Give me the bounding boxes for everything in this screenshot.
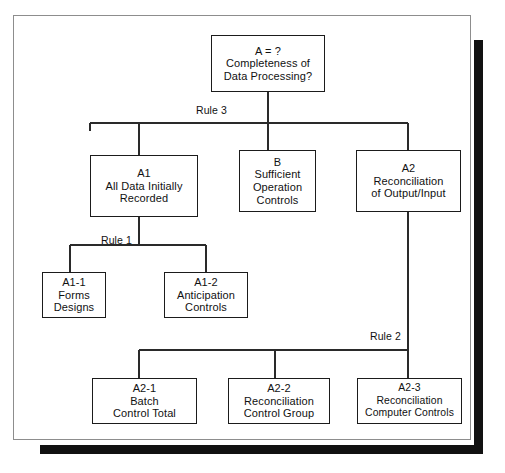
node-line: Controls xyxy=(257,194,299,207)
node-line: Computer Controls xyxy=(365,407,454,420)
flowchart-diagram: A = ? Completeness of Data Processing? A… xyxy=(0,0,505,473)
node-line: Reconciliation xyxy=(374,175,444,188)
node-line: Controls xyxy=(185,301,227,314)
node-line: Data Processing? xyxy=(224,70,312,83)
frame-shadow-right xyxy=(474,40,483,454)
node-reconciliation-computer-controls: A2-3 Reconciliation Computer Controls xyxy=(357,378,462,424)
node-completeness-of-data-processing: A = ? Completeness of Data Processing? xyxy=(211,35,325,92)
node-line: Sufficient xyxy=(254,168,300,181)
rule-label-rule3: Rule 3 xyxy=(196,104,227,116)
rule-label-rule1: Rule 1 xyxy=(101,234,132,246)
node-sufficient-operation-controls: B Sufficient Operation Controls xyxy=(239,150,316,212)
node-line: Completeness of xyxy=(226,57,310,70)
node-line: Batch xyxy=(130,395,159,408)
node-line: A1-2 xyxy=(194,276,218,289)
node-line: Anticipation xyxy=(177,289,235,302)
node-line: A2 xyxy=(402,162,416,175)
node-line: Control Group xyxy=(244,407,314,420)
rule-label-rule2: Rule 2 xyxy=(370,330,401,342)
node-reconciliation-of-output-input: A2 Reconciliation of Output/Input xyxy=(356,150,461,212)
node-line: Recorded xyxy=(120,192,169,205)
node-forms-designs: A1-1 Forms Designs xyxy=(42,272,106,318)
node-line: A2-3 xyxy=(398,382,420,395)
node-line: Operation xyxy=(253,181,302,194)
node-line: Reconciliation xyxy=(244,395,314,408)
node-line: A1 xyxy=(137,167,151,180)
node-anticipation-controls: A1-2 Anticipation Controls xyxy=(164,272,248,318)
node-line: Reconciliation xyxy=(376,395,442,408)
node-line: Forms xyxy=(58,289,90,302)
node-line: of Output/Input xyxy=(371,187,445,200)
node-line: A1-1 xyxy=(62,276,86,289)
node-line: B xyxy=(274,156,281,169)
node-line: A2-1 xyxy=(133,382,157,395)
node-batch-control-total: A2-1 Batch Control Total xyxy=(92,378,197,424)
node-line: A2-2 xyxy=(267,382,291,395)
node-line: Designs xyxy=(54,301,94,314)
node-reconciliation-control-group: A2-2 Reconciliation Control Group xyxy=(228,378,330,424)
node-line: A = ? xyxy=(255,45,281,58)
node-all-data-initially-recorded: A1 All Data Initially Recorded xyxy=(90,155,198,217)
node-line: All Data Initially xyxy=(106,180,183,193)
frame-shadow-bottom xyxy=(40,445,483,454)
node-line: Control Total xyxy=(113,407,176,420)
